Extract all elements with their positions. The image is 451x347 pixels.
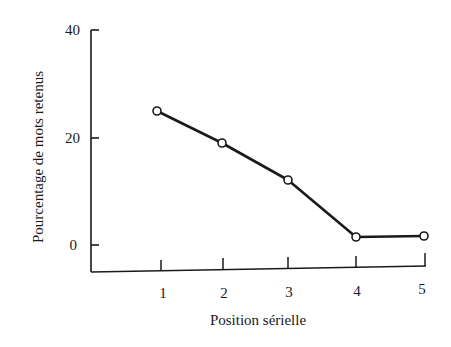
- x-axis: 1 2 3 4 5 Position sérielle: [91, 253, 426, 328]
- y-tick-label: 0: [70, 237, 78, 253]
- x-tick-label: 4: [353, 283, 361, 299]
- data-point: [420, 232, 428, 240]
- y-axis: 40 20 0 Pourcentage de mots retenus: [30, 22, 99, 272]
- data-point: [153, 107, 161, 115]
- chart: 40 20 0 Pourcentage de mots retenus 1 2 …: [0, 0, 451, 347]
- data-series: [153, 107, 428, 241]
- y-tick-label: 20: [65, 130, 80, 146]
- data-point: [284, 176, 292, 184]
- x-axis-title: Position sérielle: [210, 312, 307, 328]
- x-tick-label: 3: [285, 284, 293, 300]
- x-tick-label: 2: [220, 285, 228, 301]
- x-tick-label: 1: [159, 285, 167, 301]
- y-tick-label: 40: [65, 22, 80, 38]
- data-point: [352, 233, 360, 241]
- x-tick-label: 5: [418, 281, 426, 297]
- data-point: [218, 139, 226, 147]
- y-axis-title: Pourcentage de mots retenus: [30, 71, 46, 243]
